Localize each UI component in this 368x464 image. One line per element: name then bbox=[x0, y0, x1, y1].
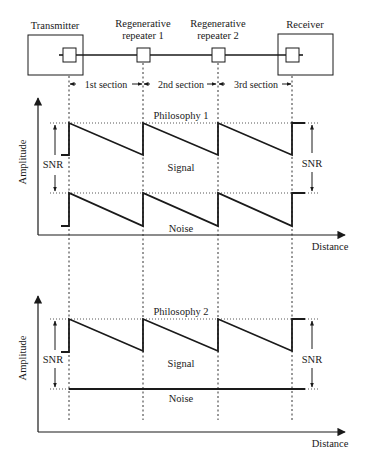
plot-philosophy-2: Amplitude Distance Philosophy 2 Signal N… bbox=[17, 296, 349, 449]
repeater-2-box bbox=[212, 48, 225, 62]
receiver-node: Receiver bbox=[278, 19, 333, 75]
repeater-1-label-line1: Regenerative bbox=[115, 18, 171, 29]
regenerative-repeater-diagram: Transmitter Regenerative repeater 1 Rege… bbox=[0, 0, 368, 464]
snr-right-label: SNR bbox=[302, 354, 322, 365]
snr-right-label: SNR bbox=[302, 158, 322, 169]
transmitter-port bbox=[63, 48, 76, 62]
y-axis-label: Amplitude bbox=[17, 139, 28, 184]
noise-waveform bbox=[61, 193, 305, 226]
signal-label: Signal bbox=[168, 358, 195, 369]
receiver-label: Receiver bbox=[286, 19, 324, 30]
receiver-port bbox=[286, 48, 299, 62]
plot-title: Philosophy 1 bbox=[153, 110, 208, 121]
signal-waveform bbox=[61, 123, 305, 155]
plot-philosophy-1: Amplitude Distance Philosophy 1 Signal N… bbox=[17, 98, 349, 252]
transmission-link: Transmitter Regenerative repeater 1 Rege… bbox=[28, 18, 333, 90]
noise-label: Noise bbox=[169, 393, 194, 404]
section-1-label: 1st section bbox=[85, 79, 128, 90]
x-axis-label: Distance bbox=[312, 438, 349, 449]
snr-left-label: SNR bbox=[43, 159, 63, 170]
section-2-label: 2nd section bbox=[158, 79, 204, 90]
noise-label: Noise bbox=[169, 223, 194, 234]
y-axis-label: Amplitude bbox=[17, 335, 28, 380]
transmitter-node: Transmitter bbox=[28, 20, 83, 75]
x-axis-label: Distance bbox=[312, 241, 349, 252]
section-3-label: 3rd section bbox=[234, 79, 278, 90]
signal-waveform bbox=[61, 319, 305, 352]
repeater-1-box bbox=[137, 48, 150, 62]
section-labels: 1st section 2nd section 3rd section bbox=[70, 79, 291, 90]
repeater-2-label-line2: repeater 2 bbox=[197, 30, 239, 41]
repeater-2-label-line1: Regenerative bbox=[190, 18, 246, 29]
snr-left-label: SNR bbox=[43, 354, 63, 365]
transmitter-label: Transmitter bbox=[31, 20, 80, 31]
plot-title: Philosophy 2 bbox=[153, 306, 208, 317]
signal-label: Signal bbox=[168, 162, 195, 173]
transmitter-box bbox=[28, 35, 83, 75]
repeater-1-label-line2: repeater 1 bbox=[122, 30, 164, 41]
